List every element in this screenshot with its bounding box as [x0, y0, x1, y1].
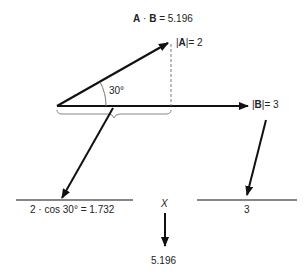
magnitude-b-arrow: [247, 120, 266, 195]
magnitude-a-label: |A|= 2: [176, 38, 203, 48]
projection-brace: [57, 110, 171, 118]
angle-label: 30°: [109, 86, 124, 96]
projection-label: 2 · cos 30° = 1.732: [30, 205, 114, 215]
magnitude-b-label: |B|= 3: [252, 100, 279, 110]
angle-arc: [100, 82, 106, 106]
result-value: 5.196: [151, 256, 176, 266]
dot-product-diagram: [0, 0, 307, 279]
dot-product-title: A · B = 5.196: [133, 14, 193, 24]
multiply-symbol: X: [161, 199, 168, 209]
magnitude-b-value: 3: [244, 205, 250, 215]
vector-a-arrow: [57, 43, 168, 106]
projection-arrow: [62, 108, 113, 198]
